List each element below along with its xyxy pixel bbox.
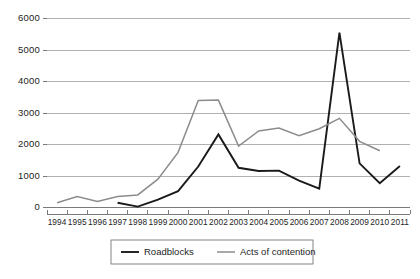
x-axis xyxy=(47,210,410,214)
y-tick-label: 1000 xyxy=(18,170,40,181)
x-tick-label: 2008 xyxy=(330,217,349,227)
x-tick-label: 2007 xyxy=(310,217,329,227)
legend-label-roadblocks: Roadblocks xyxy=(144,246,194,257)
data-series xyxy=(57,33,400,207)
x-tick-label: 1997 xyxy=(108,217,127,227)
x-tick-label: 2010 xyxy=(370,217,389,227)
x-axis-tick-labels: 1994199519961997199819992000200120022003… xyxy=(48,217,410,227)
x-tick-label: 1994 xyxy=(48,217,67,227)
x-tick-label: 2001 xyxy=(189,217,208,227)
series-line-acts-of-contention xyxy=(57,100,380,203)
gridlines xyxy=(47,19,410,208)
y-tick-label: 4000 xyxy=(18,75,40,86)
y-tick-label: 6000 xyxy=(18,12,40,23)
x-tick-label: 2009 xyxy=(350,217,369,227)
x-tick-label: 1995 xyxy=(68,217,87,227)
x-tick-label: 2011 xyxy=(391,217,410,227)
y-tick-label: 0 xyxy=(35,201,40,212)
y-tick-label: 3000 xyxy=(18,107,40,118)
chart-canvas: 0100020003000400050006000 19941995199619… xyxy=(0,0,420,279)
x-tick-label: 1996 xyxy=(88,217,107,227)
series-line-roadblocks xyxy=(118,33,400,207)
x-tick-label: 2002 xyxy=(209,217,228,227)
y-axis-tick-labels: 0100020003000400050006000 xyxy=(18,12,47,212)
x-tick-label: 2003 xyxy=(229,217,248,227)
x-tick-label: 1999 xyxy=(148,217,167,227)
line-chart: 0100020003000400050006000 19941995199619… xyxy=(0,0,420,279)
y-tick-label: 5000 xyxy=(18,44,40,55)
y-tick-label: 2000 xyxy=(18,138,40,149)
x-tick-label: 1998 xyxy=(128,217,147,227)
x-tick-label: 2004 xyxy=(249,217,268,227)
x-tick-label: 2000 xyxy=(169,217,188,227)
x-tick-label: 2006 xyxy=(290,217,309,227)
legend-label-acts-of-contention: Acts of contention xyxy=(240,246,316,257)
x-tick-label: 2005 xyxy=(269,217,288,227)
chart-legend: RoadblocksActs of contention xyxy=(111,240,316,264)
